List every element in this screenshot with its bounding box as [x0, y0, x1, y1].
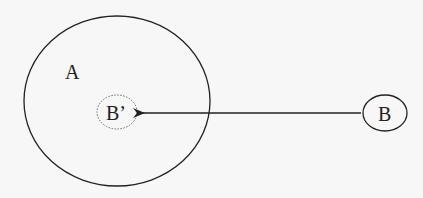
diagram-canvas: A B’ B — [0, 0, 423, 198]
label-a: A — [65, 61, 80, 83]
circle-a — [24, 16, 210, 186]
label-b: B — [378, 103, 391, 125]
label-b-prime: B’ — [106, 102, 126, 124]
